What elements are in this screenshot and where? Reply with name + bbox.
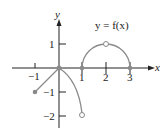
y-tick-label-1: 1 [49,38,55,50]
x-tick-label-neg1: −1 [28,70,40,82]
function-label: y = f(x) [95,19,129,32]
y-axis-arrow-icon [57,19,62,26]
y-axis-label: y [54,8,60,20]
closed-dot-1-0 [80,66,85,71]
open-dot-1-neg2 [80,113,85,118]
function-graph: x y y = f(x) −1 1 2 3 1 −1 −2 [0,0,167,138]
x-tick-label-1: 1 [79,71,85,83]
y-tick-label-neg1: −1 [43,86,55,98]
closed-dot-3-0 [128,66,133,71]
x-tick-label-3: 3 [127,71,133,83]
x-axis-label: x [154,61,160,73]
closed-dot-neg1-neg1 [33,90,38,95]
closed-dot-origin [57,66,62,71]
x-axis-arrow-icon [148,66,155,71]
y-tick-label-neg2: −2 [43,110,55,122]
x-tick-label-2: 2 [103,71,109,83]
open-dot-2-1 [104,42,109,47]
